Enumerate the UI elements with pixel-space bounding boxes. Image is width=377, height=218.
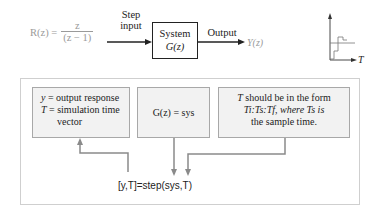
step-command: [y,T]=step(sys,T): [118, 180, 192, 191]
arrow-to-outputs-box-icon: [80, 144, 128, 172]
arrow-from-time-box-icon: [188, 138, 285, 170]
arrowhead-up-icon: [77, 138, 83, 145]
arrowhead-down-icon: [185, 169, 191, 176]
arrowhead-down-icon: [171, 169, 177, 176]
